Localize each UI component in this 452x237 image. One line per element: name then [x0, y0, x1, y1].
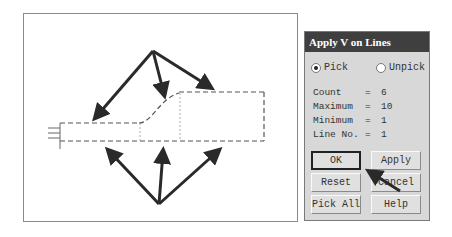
pick-info: Count=6 Maximum=10 Minimum=1 Line No.=1 [313, 86, 392, 142]
pick-all-button[interactable]: Pick All [311, 195, 361, 214]
model-geometry [24, 14, 297, 221]
info-maximum: Maximum=10 [313, 100, 392, 114]
reset-button[interactable]: Reset [311, 173, 361, 192]
info-minimum: Minimum=1 [313, 114, 392, 128]
dialog-title: Apply V on Lines [305, 32, 429, 52]
radio-unselected-icon [376, 63, 386, 73]
graphics-viewport[interactable] [23, 13, 298, 222]
info-line-no: Line No.=1 [313, 128, 392, 142]
apply-v-on-lines-dialog: Apply V on Lines Pick Unpick Count=6 Max… [304, 31, 430, 221]
annotation-arrows [96, 51, 218, 204]
apply-button[interactable]: Apply [371, 151, 421, 170]
radio-pick[interactable]: Pick [311, 62, 348, 73]
help-button[interactable]: Help [371, 195, 421, 214]
info-count: Count=6 [313, 86, 392, 100]
ok-button[interactable]: OK [311, 151, 361, 170]
radio-unpick[interactable]: Unpick [376, 62, 425, 73]
radio-selected-icon [311, 63, 321, 73]
cancel-button[interactable]: Cancel [371, 173, 421, 192]
